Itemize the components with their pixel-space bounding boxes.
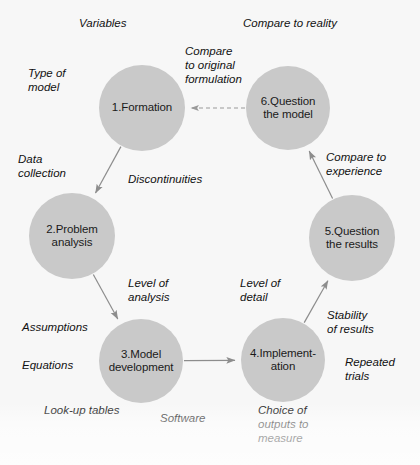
- a-data-collection: Datacollection: [18, 152, 66, 180]
- node-n6[interactable]: 6.Questionthe model: [246, 66, 330, 150]
- node-label: 6.Questionthe model: [258, 95, 319, 122]
- a-discontinuities: Discontinuities: [128, 172, 202, 186]
- a-assumptions: Assumptions: [22, 320, 88, 334]
- a-compare-original: Compareto originalformulation: [185, 44, 242, 86]
- node-n2[interactable]: 2.Problemanalysis: [29, 193, 115, 279]
- edge-e45: [304, 281, 328, 323]
- node-n3[interactable]: 3.Modeldevelopment: [99, 319, 183, 403]
- node-n1[interactable]: 1.Formation: [99, 65, 185, 151]
- a-variables: Variables: [79, 16, 127, 30]
- node-n5[interactable]: 5.Questionthe results: [309, 195, 395, 281]
- a-lookup-tables: Look-up tables: [44, 403, 119, 417]
- edge-e12: [96, 147, 121, 193]
- a-type-of-model: Type ofmodel: [28, 66, 66, 94]
- a-software: Software: [160, 411, 205, 425]
- diagram-canvas: 1.Formation2.Problemanalysis3.Modeldevel…: [0, 0, 420, 465]
- a-stability-results: Stabilityof results: [327, 308, 374, 336]
- a-level-of-detail: Level ofdetail: [240, 276, 280, 304]
- node-label: 1.Formation: [109, 101, 175, 115]
- node-label: 4.Implement-ation: [247, 347, 319, 374]
- a-level-of-analysis: Level ofanalysis: [128, 276, 170, 304]
- node-label: 3.Modeldevelopment: [106, 348, 177, 375]
- edge-e23: [93, 275, 118, 320]
- a-compare-experience: Compare toexperience: [326, 150, 386, 178]
- a-choice-outputs: Choice ofoutputs tomeasure: [258, 403, 309, 445]
- a-equations: Equations: [22, 358, 73, 372]
- node-label: 5.Questionthe results: [322, 225, 383, 252]
- a-repeated-trials: Repeatedtrials: [345, 355, 395, 383]
- a-compare-reality: Compare to reality: [243, 16, 337, 30]
- node-label: 2.Problemanalysis: [43, 223, 101, 250]
- node-n4[interactable]: 4.Implement-ation: [241, 318, 325, 402]
